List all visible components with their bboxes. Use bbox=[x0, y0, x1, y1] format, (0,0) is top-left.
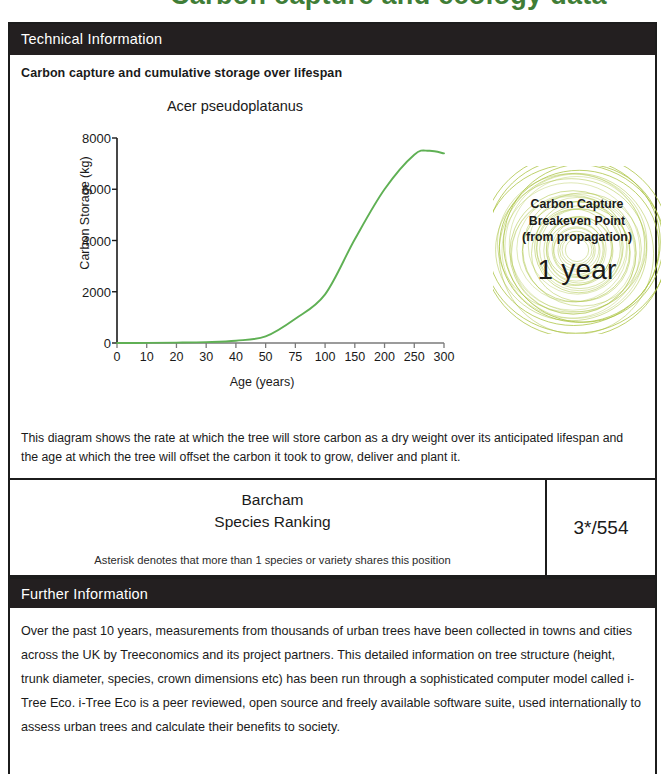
species-ranking-title: Barcham Species Ranking bbox=[10, 489, 547, 533]
badge-line-1: Carbon Capture bbox=[493, 196, 661, 213]
datasheet-card: Technical Information Carbon capture and… bbox=[8, 22, 657, 774]
technical-information-label: Technical Information bbox=[21, 31, 162, 47]
chart-plot-area: Carbon Storage (kg) Age (years) 02000400… bbox=[62, 128, 462, 403]
technical-information-body: Carbon capture and cumulative storage ov… bbox=[10, 55, 655, 480]
chart-section-subtitle: Carbon capture and cumulative storage ov… bbox=[10, 55, 655, 80]
carbon-storage-chart: Acer pseudoplatanus Carbon Storage (kg) … bbox=[10, 80, 655, 420]
species-ranking-label-cell: Barcham Species Ranking Asterisk denotes… bbox=[10, 480, 547, 575]
badge-value: 1 year bbox=[493, 254, 661, 286]
species-ranking-title-line-2: Species Ranking bbox=[10, 511, 535, 533]
badge-caption: Carbon Capture Breakeven Point (from pro… bbox=[493, 196, 661, 246]
chart-explanatory-note: This diagram shows the rate at which the… bbox=[10, 420, 655, 478]
further-information-body: Over the past 10 years, measurements fro… bbox=[10, 608, 655, 739]
top-heading-text: Carbon capture and ecology data bbox=[170, 0, 607, 11]
species-ranking-value-cell: 3*/554 bbox=[545, 480, 655, 575]
badge-line-3: (from propagation) bbox=[493, 229, 661, 246]
species-ranking-footnote: Asterisk denotes that more than 1 specie… bbox=[10, 554, 547, 566]
technical-information-band: Technical Information bbox=[10, 24, 655, 55]
chart-series-line bbox=[117, 150, 444, 343]
tree-rings-icon bbox=[493, 166, 661, 334]
chart-title: Acer pseudoplatanus bbox=[70, 98, 400, 114]
page-top-heading-fragment: Carbon capture and ecology data bbox=[0, 0, 665, 18]
chart-tick-marks bbox=[112, 138, 444, 348]
tree-datasheet-page: Carbon capture and ecology data Technica… bbox=[0, 0, 665, 774]
carbon-breakeven-badge: Carbon Capture Breakeven Point (from pro… bbox=[493, 166, 661, 334]
species-ranking-value: 3*/554 bbox=[574, 517, 629, 539]
further-information-label: Further Information bbox=[21, 586, 148, 602]
species-ranking-title-line-1: Barcham bbox=[10, 489, 535, 511]
species-ranking-row: Barcham Species Ranking Asterisk denotes… bbox=[10, 480, 655, 577]
badge-line-2: Breakeven Point bbox=[493, 213, 661, 230]
chart-canvas bbox=[62, 128, 462, 368]
further-information-band: Further Information bbox=[10, 577, 655, 608]
chart-x-axis-label: Age (years) bbox=[112, 375, 412, 389]
